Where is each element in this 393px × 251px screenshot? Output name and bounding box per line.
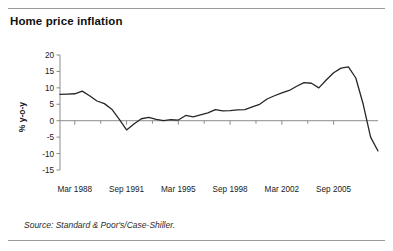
top-divider — [8, 8, 385, 9]
chart-container: % y-o-y 20151050-5-10-15Mar 1988Sep 1991… — [0, 40, 393, 205]
x-axis-tick-label: Sep 1998 — [213, 185, 249, 194]
x-axis-tick-label: Mar 2002 — [265, 185, 300, 194]
y-axis-tick-label: 5 — [49, 100, 54, 109]
y-axis-tick-label: -15 — [42, 166, 54, 175]
x-axis-tick-label: Mar 1995 — [161, 185, 196, 194]
y-axis-tick-label: 20 — [45, 51, 55, 60]
line-chart-svg: 20151050-5-10-15Mar 1988Sep 1991Mar 1995… — [0, 40, 393, 205]
bottom-divider — [8, 240, 385, 241]
source-note: Source: Standard & Poor's/Case-Shiller. — [24, 220, 175, 230]
data-series-line — [60, 67, 378, 151]
y-axis-tick-label: -10 — [42, 150, 54, 159]
x-axis-tick-label: Sep 1991 — [109, 185, 145, 194]
y-axis-tick-label: -5 — [47, 133, 55, 142]
x-axis-tick-label: Sep 2005 — [316, 185, 352, 194]
x-axis-tick-label: Mar 1988 — [57, 185, 92, 194]
y-axis-tick-label: 15 — [45, 67, 55, 76]
chart-page: Home price inflation % y-o-y 20151050-5-… — [0, 0, 393, 251]
y-axis-tick-label: 10 — [45, 84, 55, 93]
y-axis-tick-label: 0 — [49, 117, 54, 126]
page-title: Home price inflation — [10, 15, 123, 27]
